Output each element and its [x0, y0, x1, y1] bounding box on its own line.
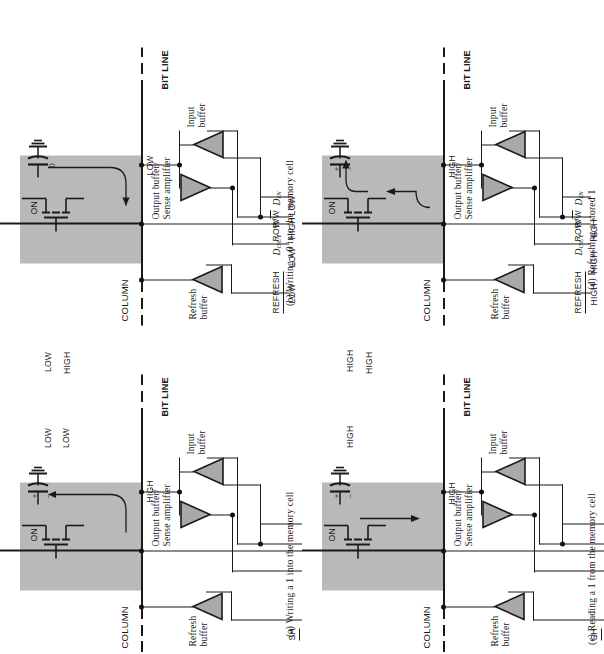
node-outbuf-in — [177, 162, 182, 167]
input-buffer-symbol — [496, 457, 526, 485]
refresh-buffer-label-1: Refresh — [490, 288, 501, 319]
cap-plus-label: + — [332, 493, 342, 498]
inbuf-output-wire — [481, 471, 496, 472]
inbuf-output-wire — [179, 144, 194, 145]
inbuf-enable-v — [207, 457, 238, 458]
refresh-branch-wire — [443, 279, 495, 280]
output-buffer-label-2: Sense amplifier — [162, 484, 173, 546]
panel-c-caption: (c) Reading a 1 from the memory cell — [586, 493, 597, 645]
refresh-buffer-feedback-h — [533, 264, 534, 293]
din-bus — [260, 157, 261, 217]
inbuf-enable-h — [237, 457, 238, 544]
bit-line-dash-left — [141, 612, 143, 652]
row-signal-wire — [142, 550, 302, 551]
inbuf-enable-h — [539, 457, 540, 544]
panel-c-refresh-value: HIGH — [346, 350, 356, 372]
input-buffer-label-1: Input — [488, 106, 499, 127]
refresh-buffer-label-2: buffer — [199, 295, 210, 319]
column-label: COLUMN — [422, 279, 433, 321]
rw-signal-label: R/W — [574, 210, 584, 227]
refresh-buffer-label-2: buffer — [501, 622, 512, 646]
panel-c-dout-value: HIGH — [346, 426, 356, 448]
inbuf-enable-v — [509, 130, 540, 131]
bit-line-dash-right — [141, 47, 143, 91]
panel-d-caption: (d) Refreshing a stored 1 — [586, 190, 597, 290]
column-label: COLUMN — [120, 606, 131, 648]
bit-line-dash-right — [443, 47, 445, 91]
bit-line-label: BIT LINE — [160, 50, 170, 89]
bit-line-label: BIT LINE — [462, 50, 472, 89]
dout-bus — [232, 187, 233, 245]
din-bus — [562, 157, 563, 217]
panel-a-refresh-value: LOW — [44, 352, 54, 372]
din-signal-label: DIN — [574, 191, 585, 205]
inbuf-enable-h — [539, 130, 540, 217]
output-buffer-label-2: Sense amplifier — [162, 157, 173, 219]
panel-a-rw-value: LOW — [62, 428, 72, 448]
input-buffer-label-2: buffer — [197, 430, 208, 454]
output-buffer-label-2: Sense amplifier — [464, 484, 475, 546]
inbuf-enable-h — [237, 130, 238, 217]
panel-a-row-value: HIGH — [63, 352, 73, 374]
current-arrow — [360, 502, 430, 526]
input-buffer-label-1: Input — [186, 106, 197, 127]
panel-d-content: ON + − HIGH Refresh buffer Outp — [302, 0, 604, 327]
input-buffer-label-1: Input — [488, 433, 499, 454]
row-signal-wire — [444, 550, 604, 551]
refresh-buffer-feedback-h — [231, 264, 232, 293]
output-buffer-symbol — [180, 173, 210, 201]
node-dout — [230, 185, 235, 190]
output-buffer-label-1: Output buffer/ — [453, 489, 464, 546]
output-buffer-symbol — [482, 173, 512, 201]
cap-charge-label: 0 — [48, 163, 58, 168]
panel-d: ON + − HIGH Refresh buffer Outp — [302, 0, 604, 327]
input-buffer-label-2: buffer — [499, 103, 510, 127]
inbuf-enable-v — [509, 457, 540, 458]
inbuf-output-wire — [481, 144, 496, 145]
column-label: COLUMN — [120, 279, 131, 321]
bit-line-dash-left — [141, 285, 143, 325]
panel-a-dout-value: LOW — [44, 428, 54, 448]
din-bus — [260, 484, 261, 544]
panel-b: ON 0 LOW Refresh buffer — [0, 0, 302, 327]
panel-c: ON + − HIGH Refresh buffer Outp — [302, 327, 604, 654]
node-dout — [532, 185, 537, 190]
current-arrow — [48, 151, 146, 215]
cap-plus-label: + — [332, 166, 342, 171]
refresh-signal-label: REFRESH — [574, 271, 586, 313]
output-buffer-label-1: Output buffer/ — [453, 162, 464, 219]
refresh-buffer-feedback-v — [206, 264, 232, 265]
panel-c-content: ON + − HIGH Refresh buffer Outp — [302, 327, 604, 654]
refresh-buffer-feedback-v — [508, 591, 534, 592]
output-buffer-symbol — [482, 500, 512, 528]
panel-a-content: ON + − HIGH Refresh buffer Outp — [0, 327, 302, 654]
column-label: COLUMN — [422, 606, 433, 648]
refresh-buffer-label-2: buffer — [199, 622, 210, 646]
refresh-buffer-label-2: buffer — [501, 295, 512, 319]
transistor-state-label: ON — [30, 528, 40, 541]
output-buffer-label-2: Sense amplifier — [464, 157, 475, 219]
refresh-buffer-label-1: Refresh — [490, 615, 501, 646]
refresh-buffer-label-1: Refresh — [188, 288, 199, 319]
input-buffer-label-1: Input — [186, 433, 197, 454]
refresh-buffer-feedback-v — [508, 264, 534, 265]
din-signal-wire — [260, 523, 302, 524]
bit-line-dash-right — [141, 374, 143, 418]
refresh-branch-wire — [141, 279, 193, 280]
panel-a-caption: (a) Writing a 1 into the memory cell — [284, 492, 295, 637]
node-outbuf-in — [177, 489, 182, 494]
node-outbuf-in — [479, 162, 484, 167]
refresh-signal-label: REFRESH — [272, 271, 284, 313]
refresh-buffer-feedback-h — [231, 591, 232, 620]
bit-line-dash-left — [443, 612, 445, 652]
cap-minus-label: − — [346, 166, 356, 171]
row-signal-wire — [142, 223, 289, 224]
input-buffer-label-2: buffer — [197, 103, 208, 127]
din-wire — [223, 157, 261, 158]
rw-signal-label: R/W — [272, 210, 282, 227]
panel-b-content: ON 0 LOW Refresh buffer — [0, 0, 302, 327]
cap-plus-label: + — [30, 493, 40, 498]
dout-signal-label: DOUT — [272, 233, 283, 255]
panel-b-caption: (b) Writing a 0 into the memory cell — [284, 160, 295, 306]
